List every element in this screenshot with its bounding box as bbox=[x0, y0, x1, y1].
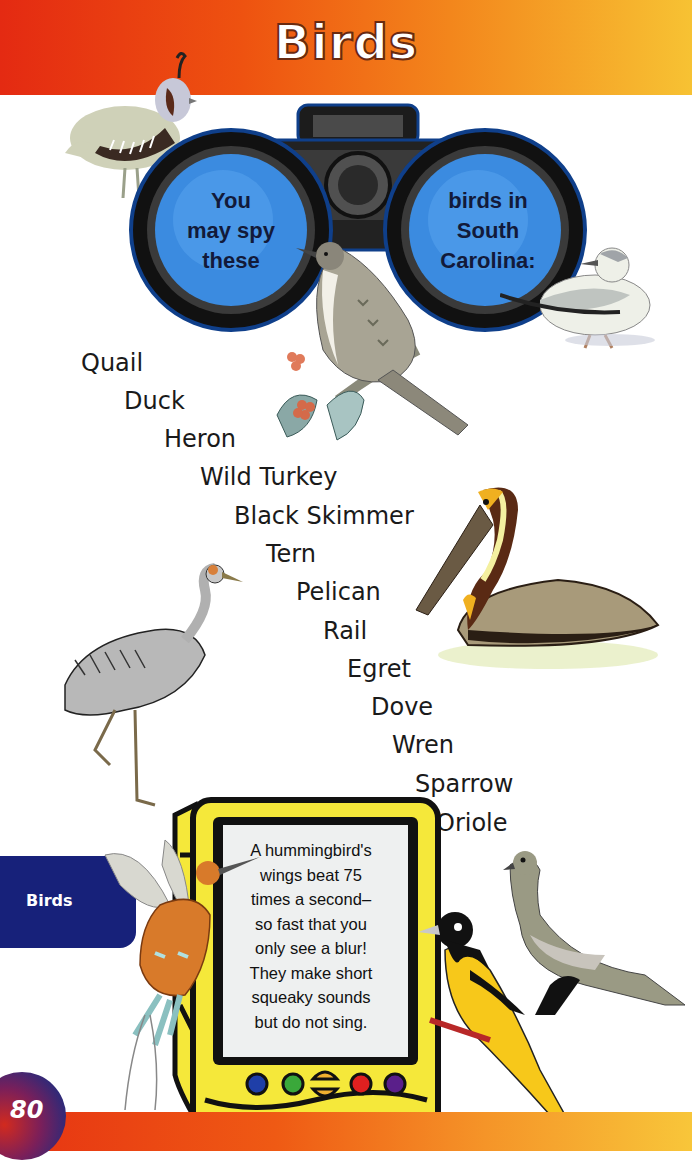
crane-icon bbox=[55, 560, 245, 810]
oriole-icon bbox=[410, 910, 580, 1120]
lens-line: birds in bbox=[424, 186, 552, 216]
bird-list-item: Sparrow bbox=[415, 770, 513, 798]
bird-list-item: Rail bbox=[323, 617, 367, 645]
bird-list-item: Egret bbox=[347, 655, 411, 683]
bird-list-item: Wild Turkey bbox=[200, 463, 338, 491]
bird-list-item: Pelican bbox=[296, 578, 381, 606]
bird-list-item: Duck bbox=[124, 387, 185, 415]
page-footer-bar bbox=[0, 1112, 692, 1151]
bird-list-item: Wren bbox=[392, 731, 454, 759]
lens-line: You bbox=[171, 186, 291, 216]
page-number: 80 bbox=[10, 1096, 43, 1124]
bird-list-item: Quail bbox=[81, 349, 143, 377]
pelican-icon bbox=[408, 480, 678, 680]
hummingbird-icon bbox=[100, 835, 260, 1115]
raspberry-icon bbox=[272, 345, 372, 445]
bird-list-item: Black Skimmer bbox=[234, 502, 414, 530]
bird-list-item: Tern bbox=[266, 540, 316, 568]
bird-list-item: Heron bbox=[164, 425, 236, 453]
bird-list-item: Dove bbox=[371, 693, 433, 721]
side-tab-label: Birds bbox=[26, 891, 73, 910]
skimmer-icon bbox=[500, 240, 660, 355]
